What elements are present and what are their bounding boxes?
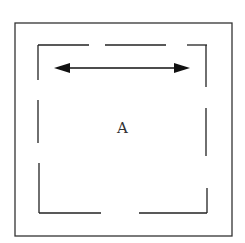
diagram-canvas: A: [0, 0, 245, 243]
arrow-head-right-icon: [174, 63, 190, 73]
double-arrow: [54, 63, 190, 73]
arrow-head-left-icon: [54, 63, 70, 73]
region-label: A: [116, 119, 128, 137]
